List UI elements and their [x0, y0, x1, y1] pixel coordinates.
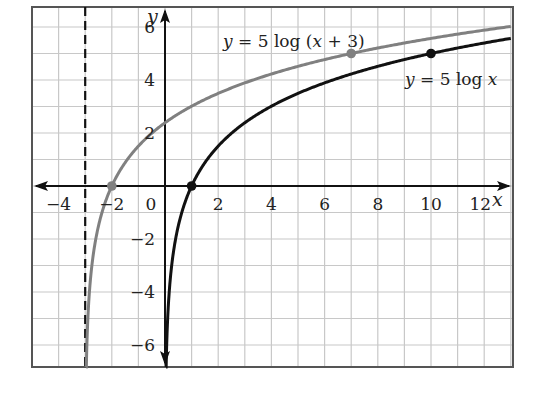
log-graph-chart: −4−2024681012642−2−4−6 x y y = 5 log (x … [0, 0, 535, 395]
y-tick-label: 2 [144, 123, 155, 143]
axes [34, 9, 511, 365]
x-tick-label: 4 [266, 194, 277, 214]
x-tick-label: −2 [99, 194, 124, 214]
data-point [187, 181, 197, 191]
curve-label-base: y = 5 log x [404, 69, 498, 89]
y-tick-label: −2 [130, 229, 155, 249]
x-tick-label: 6 [319, 194, 330, 214]
y-tick-label: −6 [130, 335, 155, 355]
y-tick-label: 4 [144, 70, 155, 90]
data-point [426, 49, 436, 59]
x-tick-label: 2 [213, 194, 224, 214]
x-axis-label: x [492, 188, 503, 210]
curve-label-shifted: y = 5 log (x + 3) [222, 31, 365, 51]
x-tick-label: −4 [46, 194, 71, 214]
data-point [107, 181, 117, 191]
x-tick-label: 10 [420, 194, 442, 214]
x-tick-label: 0 [146, 194, 157, 214]
x-tick-label: 12 [469, 194, 491, 214]
x-tick-label: 8 [372, 194, 383, 214]
y-axis-label: y [146, 5, 158, 27]
y-tick-label: −4 [130, 282, 155, 302]
